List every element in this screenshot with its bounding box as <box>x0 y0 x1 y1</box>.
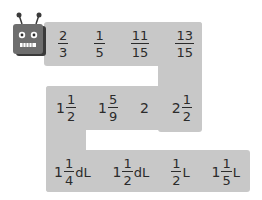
number-item: 1 59 <box>98 93 118 123</box>
numerator: 2 <box>58 29 68 44</box>
fraction: 23 <box>58 29 68 59</box>
fraction: 15 <box>221 157 231 187</box>
fraction: 59 <box>108 93 118 123</box>
denominator: 5 <box>95 44 103 59</box>
denominator: 2 <box>183 108 191 123</box>
number-item: 2 <box>140 101 150 115</box>
number-item: 2 12 <box>172 93 192 123</box>
denominator: 2 <box>123 172 131 187</box>
fraction: 1115 <box>131 29 150 59</box>
numerator: 1 <box>122 157 132 172</box>
denominator: 3 <box>59 44 67 59</box>
numerator: 1 <box>221 157 231 172</box>
whole-part: 1 <box>56 101 65 115</box>
denominator: 4 <box>65 172 73 187</box>
denominator: 9 <box>109 108 117 123</box>
numerator: 1 <box>171 157 181 172</box>
denominator: 2 <box>172 172 180 187</box>
numerator: 5 <box>108 93 118 108</box>
number-item: 1315 <box>175 29 194 59</box>
unit-label: dL <box>134 166 150 179</box>
number-item: 1 14 dL <box>54 157 91 187</box>
denominator: 5 <box>222 172 230 187</box>
unit-label: dL <box>75 166 91 179</box>
unit-label: L <box>233 166 240 179</box>
whole-part: 1 <box>98 101 107 115</box>
number-item: 1 12 dL <box>113 157 150 187</box>
numerator: 1 <box>66 93 76 108</box>
whole-part: 1 <box>113 165 122 179</box>
whole-part: 2 <box>140 101 149 115</box>
fraction: 14 <box>64 157 74 187</box>
robot-icon <box>12 12 46 58</box>
fraction: 1315 <box>175 29 194 59</box>
fraction: 12 <box>182 93 192 123</box>
fraction: 12 <box>66 93 76 123</box>
numerator: 1 <box>94 29 104 44</box>
numerator: 11 <box>131 29 150 44</box>
numerator: 1 <box>182 93 192 108</box>
numerator: 13 <box>175 29 194 44</box>
number-item: 15 <box>94 29 104 59</box>
whole-part: 1 <box>54 165 63 179</box>
fraction: 15 <box>94 29 104 59</box>
denominator: 15 <box>132 44 149 59</box>
number-item: 1 15 L <box>212 157 240 187</box>
number-item: 1115 <box>131 29 150 59</box>
denominator: 2 <box>67 108 75 123</box>
denominator: 15 <box>176 44 193 59</box>
fraction: 12 <box>171 157 181 187</box>
unit-label: L <box>182 166 189 179</box>
fraction: 12 <box>122 157 132 187</box>
numerator: 1 <box>64 157 74 172</box>
row-proper-fractions: 23 15 1115 1315 <box>58 26 202 62</box>
row-mixed-numbers: 1 12 1 59 2 2 12 <box>56 90 202 126</box>
number-item: 23 <box>58 29 68 59</box>
number-item: 12 L <box>171 157 190 187</box>
number-item: 1 12 <box>56 93 76 123</box>
whole-part: 1 <box>212 165 221 179</box>
row-volume-measures: 1 14 dL 1 12 dL 12 L 1 15 L <box>54 154 250 190</box>
whole-part: 2 <box>172 101 181 115</box>
